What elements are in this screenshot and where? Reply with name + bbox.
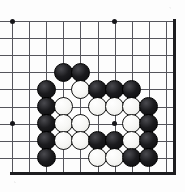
black-stone <box>54 63 73 82</box>
grid-line-horizontal <box>0 21 173 22</box>
black-stone <box>71 63 90 82</box>
grid-line-horizontal <box>0 38 173 39</box>
grid-line-vertical <box>12 21 13 172</box>
board-right-edge <box>173 19 176 174</box>
star-point <box>10 121 15 126</box>
black-stone <box>139 148 158 167</box>
go-board-diagram <box>0 0 185 192</box>
grid-line-vertical <box>166 21 167 172</box>
grid-line-vertical <box>29 21 30 172</box>
white-stone <box>54 131 73 150</box>
board-bottom-edge <box>10 172 176 175</box>
grid-line-horizontal <box>0 55 173 56</box>
black-stone <box>37 148 56 167</box>
star-point <box>10 19 15 24</box>
star-point <box>112 19 117 24</box>
star-point <box>112 121 117 126</box>
